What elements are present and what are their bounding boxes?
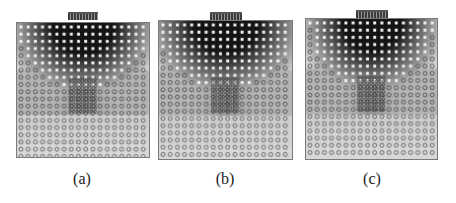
- panel-a-electrode: [68, 12, 98, 20]
- panel-a-field-map: [16, 22, 150, 158]
- panel-c-caption: (c): [352, 170, 392, 188]
- panel-a-caption: (a): [62, 170, 102, 188]
- panel-b-electrode: [210, 12, 242, 20]
- panel-b-field-map: [158, 20, 293, 160]
- panel-b-caption: (b): [205, 170, 245, 188]
- panel-c-field-map: [305, 18, 438, 160]
- panel-c-electrode: [356, 10, 388, 18]
